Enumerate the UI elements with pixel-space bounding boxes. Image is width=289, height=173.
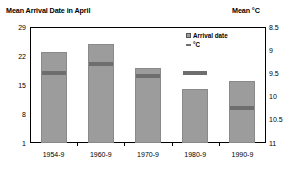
bar-arrival-date [41, 52, 67, 143]
marker-temperature [42, 71, 66, 75]
y-axis-left-tick-label: 1 [4, 140, 26, 147]
y-axis-left-tick-label: 29 [4, 24, 26, 31]
x-axis-tick [77, 143, 78, 146]
legend-label-temperature: °C [193, 40, 200, 49]
marker-temperature [136, 74, 160, 78]
marker-temperature [89, 62, 113, 66]
y-axis-left-tick-label: 15 [4, 82, 26, 89]
bar-arrival-date [88, 44, 114, 143]
y-axis-right-tick-label: 11 [269, 140, 289, 147]
y-axis-right-tick-label: 8.5 [269, 24, 289, 31]
x-axis-tick [219, 143, 220, 146]
dash-swatch-icon [186, 44, 191, 46]
legend-label-arrival-date: Arrival date [193, 31, 228, 40]
marker-temperature [230, 106, 254, 110]
y-axis-right-tick-label: 9 [269, 47, 289, 54]
x-axis-tick [172, 143, 173, 146]
chart-title-right: Mean °C [232, 6, 260, 15]
filled-square-swatch-icon [186, 33, 191, 38]
y-axis-right-tick-label: 10.5 [269, 116, 289, 123]
legend-item-arrival-date: Arrival date [186, 31, 228, 40]
bar-arrival-date [135, 68, 161, 143]
chart-title-left: Mean Arrival Date in April [6, 6, 90, 15]
y-axis-left-tick-label: 8 [4, 111, 26, 118]
bar-arrival-date [182, 89, 208, 143]
chart-legend: Arrival date °C [186, 31, 228, 49]
y-axis-right-tick-label: 9.5 [269, 70, 289, 77]
chart-container: Mean Arrival Date in April Mean °C 29221… [0, 0, 289, 173]
x-axis-tick-label: 1990-9 [212, 151, 272, 159]
y-axis-right-tick-label: 10 [269, 93, 289, 100]
marker-temperature [183, 71, 207, 75]
bar-arrival-date [229, 81, 255, 143]
legend-item-temperature: °C [186, 40, 228, 49]
y-axis-left-tick-label: 22 [4, 53, 26, 60]
x-axis-tick [124, 143, 125, 146]
